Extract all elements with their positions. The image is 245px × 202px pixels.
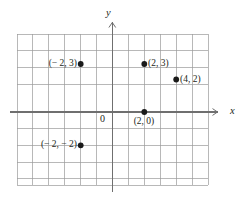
point-label-2-0: (2, 0): [134, 117, 155, 127]
point-label-4-2: (4, 2): [180, 75, 201, 85]
y-axis-label: y: [106, 8, 111, 19]
data-point-marker: [173, 77, 179, 83]
coordinate-plane-figure: y x 0 (− 2, 3) (2, 3) (4, 2) (2, 0) (− 2…: [0, 0, 245, 202]
point-label-neg2-3: (− 2, 3): [49, 59, 77, 69]
x-axis: [10, 109, 218, 116]
point-label-neg2-neg2: (− 2, − 2): [41, 140, 77, 150]
x-axis-label: x: [230, 106, 235, 117]
data-point-marker: [141, 61, 147, 67]
grid-and-axes-svg: [0, 0, 245, 202]
point-label-2-3: (2, 3): [148, 59, 169, 69]
data-point-marker: [78, 61, 84, 67]
origin-label: 0: [100, 114, 105, 124]
y-axis: [109, 22, 116, 192]
data-point-marker: [141, 109, 147, 115]
data-point-marker: [78, 142, 84, 148]
